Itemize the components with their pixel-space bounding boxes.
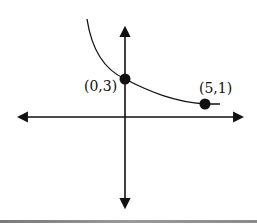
coordinate-plane: (0,3) (5,1) [0,0,257,224]
point-0-3 [120,74,131,85]
point-0-3-label: (0,3) [84,78,117,94]
graph-figure: (0,3) (5,1) [0,0,257,224]
bottom-divider [0,220,257,223]
point-5-1-label: (5,1) [199,80,232,96]
point-5-1 [200,99,211,110]
